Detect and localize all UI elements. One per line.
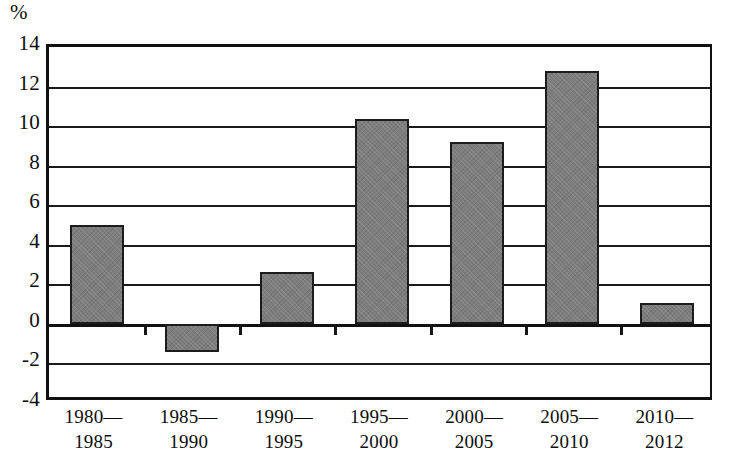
bar bbox=[260, 272, 314, 323]
bar bbox=[70, 225, 124, 324]
y-axis-tick-label: 0 bbox=[0, 310, 40, 331]
y-axis-tick-label: 6 bbox=[0, 191, 40, 212]
x-axis-label-line2: 2012 bbox=[617, 429, 712, 454]
x-axis-tick-label: 1995—2000 bbox=[331, 404, 426, 454]
y-axis-unit-label: % bbox=[10, 2, 28, 23]
x-axis-tick-label: 2010—2012 bbox=[617, 404, 712, 454]
gridline bbox=[49, 87, 710, 89]
x-axis-tick-labels: 1980—19851985—19901990—19951995—20002000… bbox=[46, 404, 712, 458]
y-axis-tick-label: 4 bbox=[0, 231, 40, 252]
category-separator-tick bbox=[525, 324, 528, 335]
bar bbox=[545, 71, 599, 324]
x-axis-tick-label: 1990—1995 bbox=[236, 404, 331, 454]
x-axis-tick-label: 1985—1990 bbox=[141, 404, 236, 454]
y-axis-tick-label: 12 bbox=[0, 73, 40, 94]
x-axis-label-line1: 2000— bbox=[427, 404, 522, 429]
x-axis-label-line2: 2010 bbox=[522, 429, 617, 454]
x-axis-label-line2: 1990 bbox=[141, 429, 236, 454]
y-axis-tick-label: 10 bbox=[0, 112, 40, 133]
y-axis-tick-label: 8 bbox=[0, 152, 40, 173]
x-axis-label-line1: 2010— bbox=[617, 404, 712, 429]
x-axis-tick-label: 2005—2010 bbox=[522, 404, 617, 454]
bar bbox=[165, 324, 219, 352]
bar bbox=[450, 142, 504, 324]
category-separator-tick bbox=[144, 324, 147, 335]
category-separator-tick bbox=[334, 324, 337, 335]
x-axis-label-line1: 1990— bbox=[236, 404, 331, 429]
x-axis-tick-label: 1980—1985 bbox=[46, 404, 141, 454]
category-separator-tick bbox=[430, 324, 433, 335]
y-axis-tick-label: 2 bbox=[0, 270, 40, 291]
y-axis-tick-label: -2 bbox=[0, 349, 40, 370]
bar-chart: % 14121086420-2-4 1980—19851985—19901990… bbox=[0, 0, 731, 458]
x-axis-label-line2: 1995 bbox=[236, 429, 331, 454]
x-axis-label-line2: 2005 bbox=[427, 429, 522, 454]
plot-inner bbox=[49, 47, 710, 397]
zero-line bbox=[49, 324, 710, 327]
gridline bbox=[49, 363, 710, 365]
x-axis-label-line2: 2000 bbox=[331, 429, 426, 454]
x-axis-tick-label: 2000—2005 bbox=[427, 404, 522, 454]
x-axis-label-line1: 1980— bbox=[46, 404, 141, 429]
category-separator-tick bbox=[620, 324, 623, 335]
y-axis-tick-labels: 14121086420-2-4 bbox=[0, 44, 40, 400]
x-axis-label-line2: 1985 bbox=[46, 429, 141, 454]
plot-area bbox=[46, 44, 712, 400]
x-axis-label-line1: 1995— bbox=[331, 404, 426, 429]
x-axis-label-line1: 2005— bbox=[522, 404, 617, 429]
bar bbox=[640, 303, 694, 324]
y-axis-tick-label: 14 bbox=[0, 33, 40, 54]
y-axis-tick-label: -4 bbox=[0, 389, 40, 410]
bar bbox=[355, 119, 409, 324]
x-axis-label-line1: 1985— bbox=[141, 404, 236, 429]
category-separator-tick bbox=[239, 324, 242, 335]
